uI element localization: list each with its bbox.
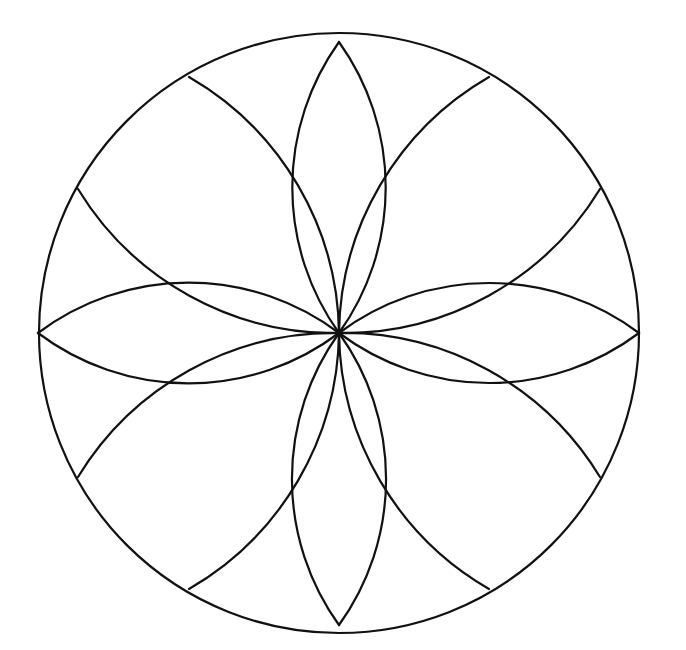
petal-left-upper-arc [38, 283, 339, 333]
petal-right-lower-arc [339, 333, 639, 383]
arc-to-upper-right-b [339, 189, 600, 333]
petal-right-upper-arc [339, 283, 639, 333]
rosette-diagram [0, 0, 686, 650]
petal-left-lower-arc [38, 333, 339, 383]
arc-to-upper-left-b [78, 189, 339, 333]
rosette-lines [38, 33, 639, 633]
arc-to-lower-right-b [339, 333, 600, 477]
arc-to-lower-left-b [78, 333, 339, 477]
